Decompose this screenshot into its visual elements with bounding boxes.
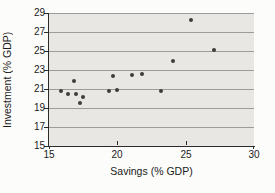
data-point	[140, 72, 144, 76]
y-gridline	[49, 89, 254, 90]
data-point	[81, 95, 85, 99]
data-point	[111, 74, 115, 78]
data-point	[115, 88, 119, 92]
y-axis-title: Investment (% GDP)	[1, 13, 14, 146]
y-gridline	[49, 108, 254, 109]
y-gridline	[49, 127, 254, 128]
data-point	[78, 101, 82, 105]
y-gridline	[49, 32, 254, 33]
data-point	[107, 89, 111, 93]
data-point	[189, 18, 193, 22]
x-tick	[186, 141, 187, 145]
y-tick-label: 23	[21, 65, 45, 75]
data-point	[59, 89, 63, 93]
y-tick-label: 27	[21, 27, 45, 37]
y-tick-label: 29	[21, 8, 45, 18]
x-axis-line	[48, 146, 255, 147]
y-gridline	[49, 13, 254, 14]
x-tick-label: 20	[105, 150, 129, 160]
scatter-figure: Investment (% GDP) Savings (% GDP) 15171…	[0, 0, 275, 193]
x-axis-title: Savings (% GDP)	[49, 166, 254, 177]
y-gridline	[49, 51, 254, 52]
data-point	[72, 79, 76, 83]
x-tick	[117, 141, 118, 145]
x-tick-label: 30	[242, 150, 266, 160]
data-point	[66, 92, 70, 96]
y-axis-line	[48, 13, 49, 147]
x-tick-label: 25	[174, 150, 198, 160]
data-point	[171, 59, 175, 63]
data-point	[159, 89, 163, 93]
data-point	[212, 48, 216, 52]
y-tick-label: 25	[21, 46, 45, 56]
y-tick-label: 21	[21, 84, 45, 94]
data-point	[74, 92, 78, 96]
x-tick-label: 15	[37, 150, 61, 160]
y-tick-label: 19	[21, 103, 45, 113]
data-point	[130, 73, 134, 77]
y-tick-label: 17	[21, 122, 45, 132]
y-gridline	[49, 70, 254, 71]
